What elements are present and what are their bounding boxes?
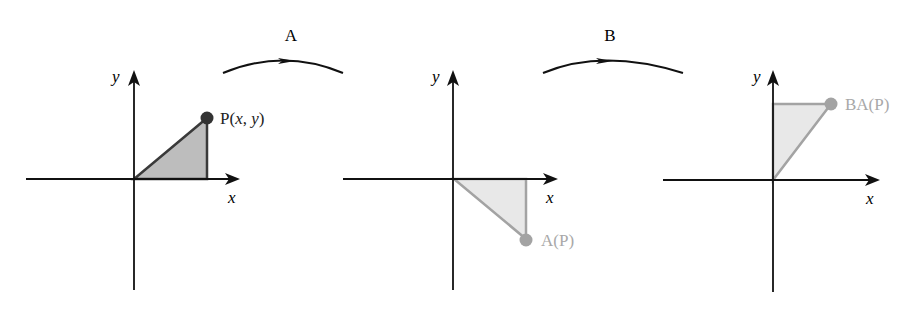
y-axis-label: y bbox=[751, 67, 761, 86]
panel-after-ba: x y BA(P) bbox=[663, 67, 889, 292]
panel-original: x y P(x, y) bbox=[26, 67, 264, 290]
transformation-diagram: A B x y P(x, y) x y A(P) bbox=[0, 0, 919, 311]
point-label-ap: A(P) bbox=[541, 231, 574, 250]
transform-label-a: A bbox=[285, 26, 298, 45]
x-axis-label: x bbox=[545, 188, 554, 207]
transform-arrow-b: B bbox=[543, 26, 683, 73]
y-axis-label: y bbox=[430, 67, 440, 86]
point-ap bbox=[520, 234, 533, 247]
transform-label-b: B bbox=[604, 26, 615, 45]
point-p bbox=[201, 112, 214, 125]
point-label-p: P(x, y) bbox=[220, 109, 264, 128]
y-axis-label: y bbox=[110, 67, 120, 86]
x-axis-label: x bbox=[865, 189, 874, 208]
transform-arrow-a: A bbox=[223, 26, 343, 73]
point-label-y: y bbox=[249, 109, 259, 128]
x-axis-label: x bbox=[227, 188, 236, 207]
panel-after-a: x y A(P) bbox=[343, 67, 574, 290]
point-bap bbox=[825, 98, 838, 111]
point-label-sep: , bbox=[243, 109, 252, 128]
point-label-prefix: P( bbox=[220, 109, 235, 128]
point-label-suffix: ) bbox=[259, 109, 265, 128]
point-label-bap: BA(P) bbox=[845, 95, 889, 114]
arc-b bbox=[543, 61, 683, 74]
